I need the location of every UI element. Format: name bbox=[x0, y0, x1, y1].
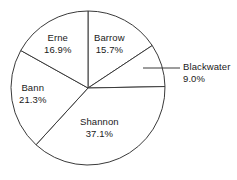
pie-label-bann-name: Bann bbox=[19, 82, 46, 94]
pie-label-erne-name: Erne bbox=[44, 32, 71, 44]
pie-label-blackwater: Blackwater 9.0% bbox=[183, 61, 230, 84]
pie-label-barrow-value: 15.7% bbox=[94, 44, 125, 56]
pie-chart: Barrow 15.7% Erne 16.9% Bann 21.3% Shann… bbox=[0, 0, 237, 180]
pie-label-shannon-value: 37.1% bbox=[80, 128, 119, 140]
pie-label-blackwater-name: Blackwater bbox=[183, 61, 230, 73]
pie-label-blackwater-value: 9.0% bbox=[183, 73, 230, 85]
pie-label-erne-value: 16.9% bbox=[44, 44, 71, 56]
pie-label-barrow: Barrow 15.7% bbox=[94, 32, 125, 55]
pie-label-bann-value: 21.3% bbox=[19, 94, 46, 106]
pie-label-erne: Erne 16.9% bbox=[44, 32, 71, 55]
pie-label-bann: Bann 21.3% bbox=[19, 82, 46, 105]
pie-label-barrow-name: Barrow bbox=[94, 32, 125, 44]
pie-label-shannon-name: Shannon bbox=[80, 116, 119, 128]
pie-label-shannon: Shannon 37.1% bbox=[80, 116, 119, 139]
